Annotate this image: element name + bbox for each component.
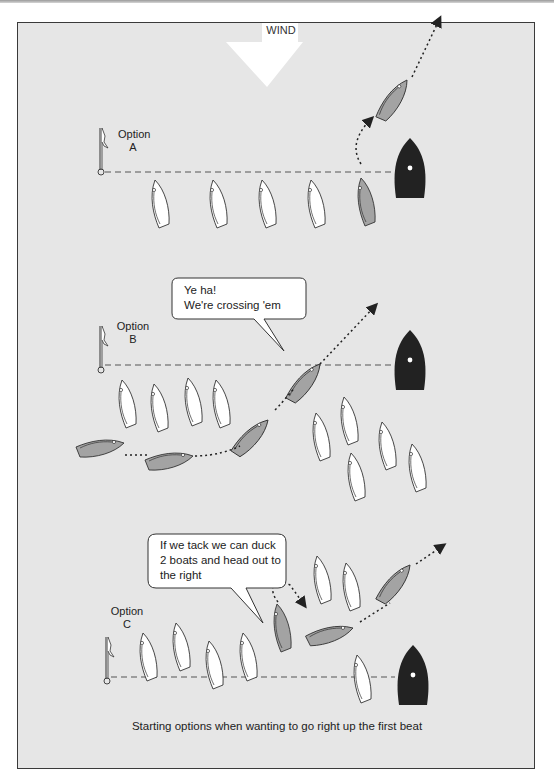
option-b-label-line2: B [116, 333, 150, 346]
wind-label: WIND [263, 24, 299, 36]
option-a-label: Option A [118, 128, 148, 154]
pin-flag-icon [98, 128, 108, 175]
option-b-label: Option B [116, 320, 150, 346]
committee-boat-icon [395, 138, 426, 198]
option-a-label-line2: A [118, 141, 148, 154]
bubble-b-text: Ye ha! We're crossing 'em [184, 283, 281, 313]
diagram-canvas [0, 0, 554, 775]
option-c-label-line2: C [110, 618, 144, 631]
figure-caption: Starting options when wanting to go righ… [0, 720, 554, 732]
bubble-c-line1: If we tack we can duck [160, 538, 281, 553]
bubble-b-line2: We're crossing 'em [184, 298, 281, 313]
bubble-c-line3: the right [160, 568, 281, 583]
bubble-c-text: If we tack we can duck 2 boats and head … [160, 538, 281, 583]
option-b-label-line1: Option [116, 320, 150, 333]
bubble-c-line2: 2 boats and head out to [160, 553, 281, 568]
option-c-label: Option C [110, 605, 144, 631]
option-c-label-line1: Option [110, 605, 144, 618]
option-a-label-line1: Option [118, 128, 148, 141]
bubble-b-line1: Ye ha! [184, 283, 281, 298]
